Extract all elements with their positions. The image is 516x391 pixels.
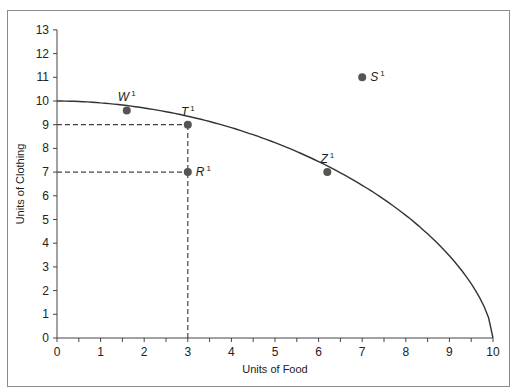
y-tick-label: 0 bbox=[42, 331, 49, 345]
point-label: S1 bbox=[370, 69, 385, 84]
y-tick-label: 1 bbox=[42, 307, 49, 321]
point-label: T1 bbox=[181, 104, 195, 119]
x-axis-title: Units of Food bbox=[242, 363, 307, 375]
x-tick-label: 1 bbox=[97, 345, 104, 359]
x-tick-label: 10 bbox=[486, 345, 500, 359]
x-tick-label: 3 bbox=[184, 345, 191, 359]
ppf-curve bbox=[57, 101, 493, 338]
axes: 012345678910012345678910111213 bbox=[36, 23, 500, 359]
point-s: S1 bbox=[358, 69, 385, 84]
y-tick-label: 9 bbox=[42, 118, 49, 132]
y-tick-label: 3 bbox=[42, 260, 49, 274]
point-label: W1 bbox=[118, 89, 136, 104]
y-tick-label: 7 bbox=[42, 165, 49, 179]
y-tick-label: 8 bbox=[42, 141, 49, 155]
x-tick-label: 6 bbox=[315, 345, 322, 359]
y-tick-label: 10 bbox=[36, 94, 50, 108]
y-tick-label: 2 bbox=[42, 284, 49, 298]
point-label: R1 bbox=[196, 164, 212, 179]
reference-lines bbox=[57, 125, 188, 338]
y-tick-label: 6 bbox=[42, 189, 49, 203]
x-tick-label: 7 bbox=[359, 345, 366, 359]
x-tick-label: 5 bbox=[272, 345, 279, 359]
x-tick-label: 9 bbox=[446, 345, 453, 359]
y-tick-label: 13 bbox=[36, 23, 50, 37]
x-tick-label: 2 bbox=[141, 345, 148, 359]
point-marker bbox=[358, 73, 366, 81]
point-marker bbox=[323, 168, 331, 176]
point-w: W1 bbox=[118, 89, 136, 114]
y-tick-label: 11 bbox=[37, 70, 50, 84]
ppf-chart: 012345678910012345678910111213 W1T1R1Z1S… bbox=[0, 0, 516, 391]
point-marker bbox=[184, 121, 192, 129]
y-tick-label: 4 bbox=[42, 236, 49, 250]
point-marker bbox=[184, 168, 192, 176]
x-tick-label: 8 bbox=[402, 345, 409, 359]
point-t: T1 bbox=[181, 104, 195, 129]
point-z: Z1 bbox=[319, 151, 334, 176]
x-tick-label: 0 bbox=[54, 345, 61, 359]
y-axis-title: Units of Clothing bbox=[14, 144, 26, 225]
x-tick-label: 4 bbox=[228, 345, 235, 359]
point-marker bbox=[123, 106, 131, 114]
y-tick-label: 5 bbox=[42, 213, 49, 227]
y-tick-label: 12 bbox=[36, 47, 50, 61]
point-label: Z1 bbox=[319, 151, 334, 166]
